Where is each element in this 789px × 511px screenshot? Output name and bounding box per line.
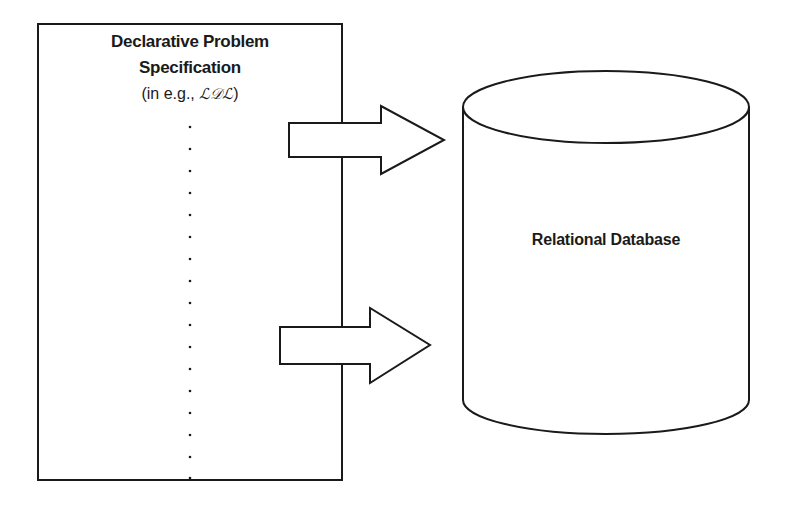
spec-box-subtitle: (in e.g., ℒ𝒟ℒ) — [38, 83, 342, 105]
spec-title-line2: Specification — [38, 55, 342, 81]
spec-title-line1: Declarative Problem — [38, 29, 342, 55]
database-cylinder-icon — [463, 71, 749, 434]
language-name: ℒ𝒟ℒ — [199, 85, 233, 103]
spec-box-title: Declarative Problem Specification — [38, 29, 342, 81]
database-label: Relational Database — [463, 229, 749, 251]
subtitle-suffix: ) — [233, 85, 238, 102]
subtitle-prefix: (in e.g., — [141, 85, 199, 102]
